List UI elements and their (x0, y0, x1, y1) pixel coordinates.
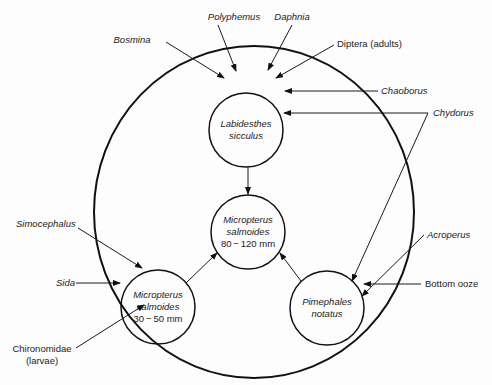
node-label: sicculus (229, 130, 263, 141)
label-chydorus: Chydorus (433, 107, 474, 118)
label-bosmina: Bosmina (114, 34, 151, 45)
node-label: notatus (311, 308, 342, 319)
arrow-pimephales-to-micropterus (280, 253, 301, 281)
node-label: Pimephales (302, 296, 352, 307)
arrow-acroperus (362, 235, 424, 296)
arrow-simocephalus (78, 228, 142, 268)
label-chironomidae: Chironomidae (12, 343, 71, 354)
label-polyphemus: Polyphemus (208, 11, 261, 22)
node-label: Micropterus (133, 289, 183, 300)
node-label: salmoides (137, 301, 180, 312)
label-diptera: Diptera (adults) (337, 38, 402, 49)
node-label: Labidesthes (220, 118, 271, 129)
node-micropterus-small: Micropterus salmoides 30 − 50 mm (121, 270, 195, 344)
node-size-label: 80 − 120 mm (221, 238, 275, 249)
arrow-chironomidae (76, 305, 144, 348)
label-simocephalus: Simocephalus (16, 218, 76, 229)
community-boundary-circle (94, 46, 414, 378)
label-acroperus: Acroperus (426, 229, 471, 240)
food-web-diagram: Labidesthes sicculus Micropterus salmoid… (0, 0, 492, 385)
label-chironomidae-larvae: (larvae) (26, 355, 58, 366)
label-chaoborus: Chaoborus (381, 85, 428, 96)
arrow-bosmina (166, 42, 224, 78)
arrow-chydorus-to-pimephales (352, 113, 428, 281)
node-pimephales: Pimephales notatus (290, 271, 364, 345)
node-label: salmoides (227, 226, 270, 237)
label-bottom-ooze: Bottom ooze (425, 278, 478, 289)
label-daphnia: Daphnia (274, 11, 309, 22)
node-labidesthes: Labidesthes sicculus (209, 93, 283, 167)
node-micropterus-large: Micropterus salmoides 80 − 120 mm (211, 195, 285, 269)
node-size-label: 30 − 50 mm (134, 313, 183, 324)
arrow-small-to-large-micropterus (186, 253, 217, 283)
label-sida: Sida (56, 277, 75, 288)
node-label: Micropterus (223, 214, 273, 225)
